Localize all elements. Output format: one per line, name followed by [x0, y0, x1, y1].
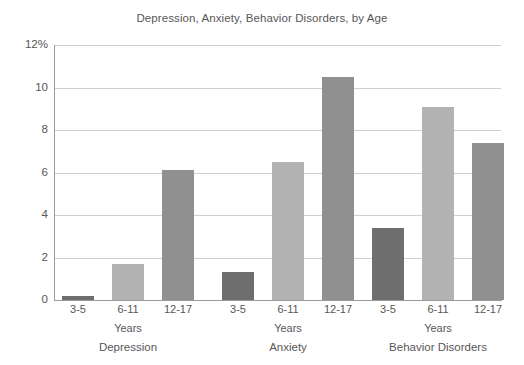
y-axis-tick-label: 0	[4, 294, 48, 306]
x-axis-tick-label: 12-17	[464, 303, 512, 315]
bar[interactable]	[112, 264, 144, 300]
y-axis-tick-label: 10	[4, 82, 48, 94]
x-axis-line	[54, 300, 502, 301]
x-axis-tick-label: 12-17	[314, 303, 362, 315]
bar[interactable]	[422, 107, 454, 300]
x-axis-tick-label: 3-5	[364, 303, 412, 315]
bar[interactable]	[322, 77, 354, 300]
bar[interactable]	[272, 162, 304, 300]
x-axis-tick-label: 3-5	[214, 303, 262, 315]
x-axis-tick-label: 3-5	[54, 303, 102, 315]
y-axis-tick-label: 2	[4, 252, 48, 264]
group-years-label: Years	[222, 322, 354, 334]
y-axis-tick-label: 12%	[4, 39, 48, 51]
x-axis-tick-label: 6-11	[264, 303, 312, 315]
bars-container	[54, 45, 501, 300]
bar[interactable]	[162, 170, 194, 300]
x-axis-tick-label: 6-11	[104, 303, 152, 315]
group-name-label: Behavior Disorders	[332, 341, 524, 353]
bar[interactable]	[472, 143, 504, 300]
x-axis-tick-label: 12-17	[154, 303, 202, 315]
y-axis-tick-label: 8	[4, 124, 48, 136]
bar[interactable]	[222, 272, 254, 300]
bar[interactable]	[62, 296, 94, 300]
chart-title: Depression, Anxiety, Behavior Disorders,…	[0, 12, 524, 24]
group-years-label: Years	[372, 322, 504, 334]
bar[interactable]	[372, 228, 404, 300]
bar-chart: Depression, Anxiety, Behavior Disorders,…	[0, 0, 524, 365]
y-axis-tick-label: 4	[4, 209, 48, 221]
y-axis-tick-label: 6	[4, 167, 48, 179]
x-axis-tick-label: 6-11	[414, 303, 462, 315]
group-years-label: Years	[62, 322, 194, 334]
